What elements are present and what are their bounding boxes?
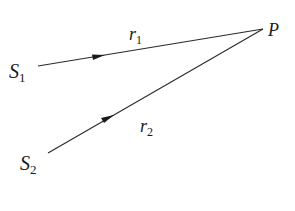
label-s1: S1 [9, 60, 26, 85]
path-r2-line [48, 29, 263, 153]
path-r1-line [38, 29, 263, 66]
diagram-canvas: S1 S2 P r1 r2 [0, 0, 295, 211]
label-r2: r2 [140, 116, 153, 139]
label-r1: r1 [129, 24, 142, 47]
label-s2: S2 [20, 152, 37, 177]
arrow-r1-icon [92, 55, 105, 61]
label-p: P [267, 20, 279, 40]
